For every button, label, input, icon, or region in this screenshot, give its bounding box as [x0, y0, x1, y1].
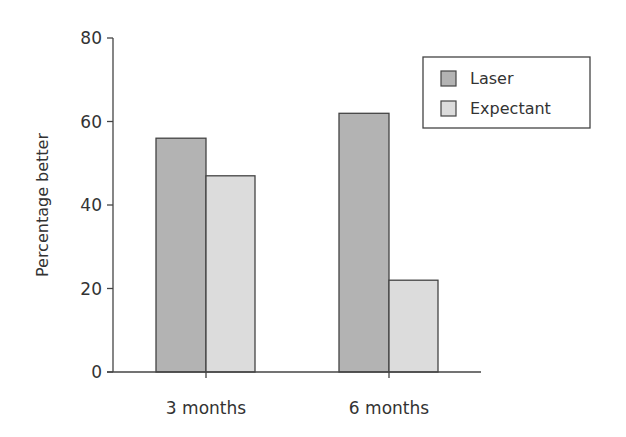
legend-swatch-expectant — [441, 101, 456, 116]
bar-laser-6-months — [339, 113, 389, 372]
bar-expectant-3-months — [206, 176, 255, 372]
y-ticks — [107, 38, 113, 372]
y-axis-title: Percentage better — [33, 133, 52, 277]
y-tick-label: 20 — [80, 279, 102, 299]
bar-expectant-6-months — [389, 280, 438, 372]
legend-label-laser: Laser — [470, 69, 514, 88]
legend: Laser Expectant — [423, 57, 590, 128]
bar-chart: 80 60 40 20 0 Percentage better 3 months… — [0, 0, 626, 437]
legend-swatch-laser — [441, 71, 456, 86]
x-tick-label: 6 months — [349, 398, 429, 418]
legend-label-expectant: Expectant — [470, 99, 551, 118]
y-tick-label: 0 — [91, 362, 102, 382]
y-tick-label: 60 — [80, 112, 102, 132]
y-tick-label: 80 — [80, 28, 102, 48]
x-tick-label: 3 months — [166, 398, 246, 418]
bar-laser-3-months — [156, 138, 206, 372]
y-tick-label: 40 — [80, 195, 102, 215]
